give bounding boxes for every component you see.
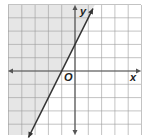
origin-label: O [64, 71, 73, 83]
x-axis-label: x [129, 71, 137, 83]
y-axis-label: y [79, 5, 87, 17]
coordinate-plane: y x O [0, 0, 144, 140]
shaded-region [8, 5, 95, 135]
